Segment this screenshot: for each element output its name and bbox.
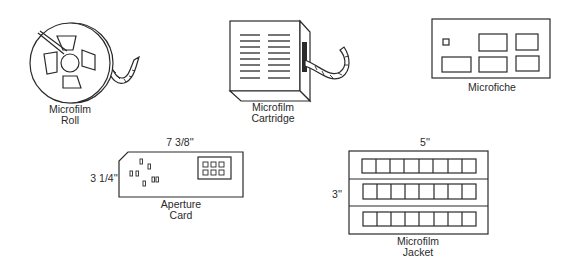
jacket-height: 3'' — [332, 188, 342, 200]
cartridge-label-line2: Cartridge — [251, 112, 294, 124]
microfilm-formats-diagram: Microfilm Roll Microfilm Cartridge — [0, 0, 578, 271]
roll-label-line2: Roll — [61, 114, 79, 126]
jacket-width: 5'' — [420, 136, 430, 148]
aperture-card-width: 7 3/8'' — [166, 136, 193, 148]
aperture-card-label-line2: Card — [170, 209, 193, 221]
aperture-card-height: 3 1/4'' — [90, 172, 117, 184]
jacket-label-line2: Jacket — [403, 246, 433, 258]
microfilm-jacket-icon: 5'' 3'' Microfilm Jacket — [332, 136, 488, 258]
microfilm-cartridge-icon: Microfilm Cartridge — [230, 21, 349, 124]
microfilm-roll-icon: Microfilm Roll — [30, 23, 139, 126]
microfiche-label: Microfiche — [468, 81, 516, 93]
microfiche-icon: Microfiche — [432, 19, 550, 93]
aperture-card-icon: 7 3/8'' 3 1/4'' Aperture Card — [90, 136, 243, 221]
